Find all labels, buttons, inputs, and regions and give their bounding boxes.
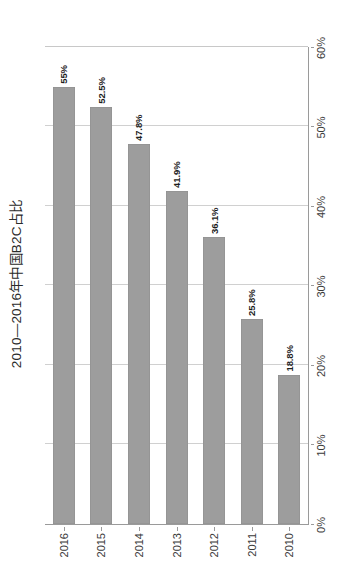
bar-2016 [53, 87, 75, 524]
category-label-2012: 2012 [207, 533, 221, 557]
bar-value-label: 47.8% [133, 115, 144, 141]
plot-area: 18.8%25.8%36.1%41.9%47.8%52.5%55% [45, 47, 308, 525]
bar-row: 25.8% [241, 289, 263, 524]
value-label-0pct: 0% [315, 517, 327, 533]
value-axis-labels: 0%10%20%30%40%50%60% [311, 47, 337, 525]
bar-row: 52.5% [90, 77, 112, 524]
bar-value-label: 25.8% [246, 289, 257, 315]
value-label-40pct: 40% [315, 196, 327, 218]
category-tick [289, 527, 290, 531]
value-label-20pct: 20% [315, 355, 327, 377]
bar-2012 [203, 237, 225, 524]
bar-row: 36.1% [203, 208, 225, 524]
category-tick [139, 527, 140, 531]
bar-2013 [166, 191, 188, 524]
value-tick [311, 445, 314, 446]
bar-row: 41.9% [166, 161, 188, 524]
value-label-50pct: 50% [315, 116, 327, 138]
category-tick [101, 527, 102, 531]
rotated-page-canvas: 2010—2016年中国B2C占比 18.8%25.8%36.1%41.9%47… [0, 0, 348, 568]
value-label-30pct: 30% [315, 275, 327, 297]
bar-value-label: 52.5% [96, 77, 107, 103]
bar-row: 18.8% [278, 345, 300, 524]
bars-group: 18.8%25.8%36.1%41.9%47.8%52.5%55% [45, 47, 308, 524]
category-tick [214, 527, 215, 531]
value-tick [311, 127, 314, 128]
bar-2014 [128, 144, 150, 524]
bar-row: 55% [53, 65, 75, 524]
category-axis-line [308, 47, 309, 525]
bar-2010 [278, 375, 300, 524]
value-label-10pct: 10% [315, 434, 327, 456]
category-label-2011: 2011 [245, 533, 259, 557]
value-tick [311, 524, 314, 525]
category-label-2013: 2013 [170, 533, 184, 557]
category-axis-labels: 2010201120122013201420152016 [45, 527, 308, 568]
bar-value-label: 18.8% [284, 345, 295, 371]
value-tick [311, 365, 314, 366]
category-label-2016: 2016 [57, 533, 71, 557]
category-label-2014: 2014 [132, 533, 146, 557]
value-tick [311, 47, 314, 48]
bar-value-label: 36.1% [209, 208, 220, 234]
bar-value-label: 41.9% [171, 161, 182, 187]
category-label-2015: 2015 [94, 533, 108, 557]
bar-chart-figure: 2010—2016年中国B2C占比 18.8%25.8%36.1%41.9%47… [0, 0, 348, 568]
bar-2011 [241, 319, 263, 524]
value-tick [311, 286, 314, 287]
page-title: 2010—2016年中国B2C占比 [5, 200, 25, 368]
value-label-60pct: 60% [315, 37, 327, 59]
chart-title-container: 2010—2016年中国B2C占比 [0, 0, 30, 568]
category-label-2010: 2010 [282, 533, 296, 557]
category-tick [177, 527, 178, 531]
bar-row: 47.8% [128, 115, 150, 524]
category-tick [252, 527, 253, 531]
value-tick [311, 206, 314, 207]
bar-value-label: 55% [58, 65, 69, 84]
category-tick [64, 527, 65, 531]
bar-2015 [90, 107, 112, 524]
